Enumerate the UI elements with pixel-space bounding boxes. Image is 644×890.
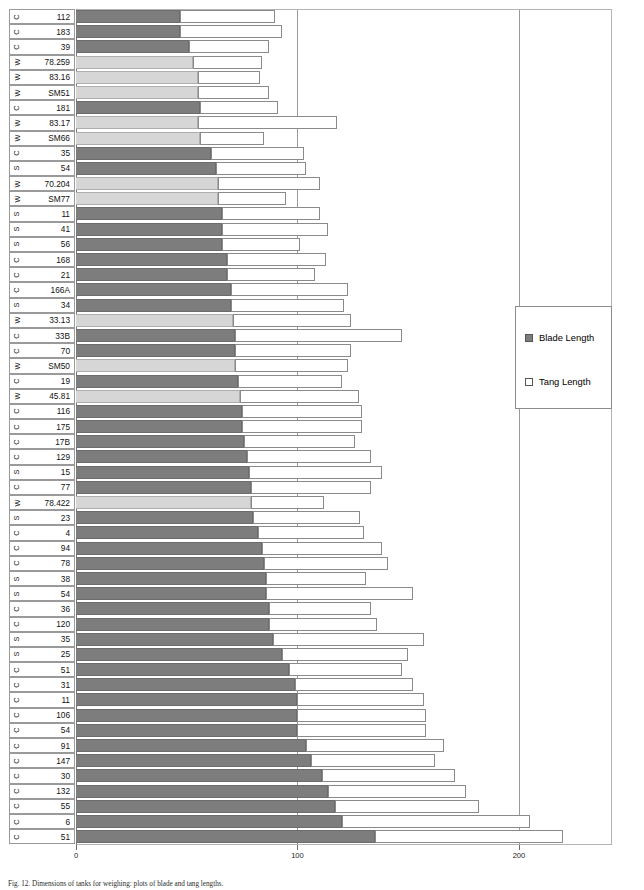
category-id: 129	[56, 453, 70, 461]
bar-segment-tang-length	[289, 663, 402, 676]
category-prefix: C	[13, 485, 20, 490]
bar-segment-blade-length	[76, 132, 200, 145]
bar-segment-tang-length	[222, 238, 300, 251]
chart-row: C94	[0, 541, 644, 556]
category-label-cell: C54	[9, 723, 75, 738]
category-id: 11	[61, 210, 70, 218]
chart-row: S56	[0, 237, 644, 252]
bar-segment-blade-length	[76, 192, 218, 205]
category-prefix: C	[13, 14, 20, 19]
category-id: 31	[61, 681, 70, 689]
bar-segment-tang-length	[297, 693, 423, 706]
chart-row: C35	[0, 146, 644, 161]
category-label-cell: W45.81	[9, 389, 75, 404]
category-label-cell: C31	[9, 677, 75, 692]
bar-segment-blade-length	[76, 390, 240, 403]
bar-segment-tang-length	[218, 192, 287, 205]
bar-segment-tang-length	[266, 587, 412, 600]
bar-segment-tang-length	[295, 678, 412, 691]
bar-segment-blade-length	[76, 466, 249, 479]
chart-row: C175	[0, 419, 644, 434]
chart-row: WSM51	[0, 85, 644, 100]
stacked-bar	[76, 71, 260, 84]
category-id: 51	[61, 833, 70, 841]
x-axis: 0100200	[0, 845, 644, 869]
category-prefix: C	[13, 530, 20, 535]
bar-segment-tang-length	[200, 132, 264, 145]
category-label-cell: C94	[9, 541, 75, 556]
category-label-cell: WSM66	[9, 131, 75, 146]
bar-segment-blade-length	[76, 223, 222, 236]
category-label-cell: S15	[9, 465, 75, 480]
stacked-bar	[76, 132, 264, 145]
category-label-cell: C168	[9, 252, 75, 267]
category-label-cell: C181	[9, 100, 75, 115]
stacked-bar	[76, 177, 320, 190]
axis-tick-label: 0	[74, 851, 78, 860]
category-id: SM77	[48, 195, 70, 203]
category-prefix: C	[13, 758, 20, 763]
bar-segment-blade-length	[76, 405, 242, 418]
chart-row: S54	[0, 586, 644, 601]
chart-row: C21	[0, 267, 644, 282]
category-prefix: C	[13, 789, 20, 794]
bar-segment-blade-length	[76, 633, 273, 646]
figure-caption: Fig. 12. Dimensions of tanks for weighin…	[8, 880, 638, 890]
category-label-cell: C120	[9, 617, 75, 632]
category-prefix: C	[13, 667, 20, 672]
category-prefix: S	[13, 652, 20, 657]
category-prefix: W	[14, 74, 21, 81]
bar-segment-tang-length	[222, 207, 319, 220]
category-prefix: W	[14, 195, 21, 202]
category-prefix: S	[13, 166, 20, 171]
category-prefix: C	[13, 439, 20, 444]
stacked-bar	[76, 162, 306, 175]
chart-row: C30	[0, 768, 644, 783]
bar-segment-blade-length	[76, 238, 222, 251]
category-prefix: C	[13, 561, 20, 566]
legend-swatch-blade-icon	[525, 334, 533, 342]
category-label-cell: C33B	[9, 328, 75, 343]
chart-row: W83.16	[0, 70, 644, 85]
stacked-bar	[76, 785, 466, 798]
category-prefix: S	[13, 242, 20, 247]
stacked-bar	[76, 481, 371, 494]
bar-segment-tang-length	[227, 268, 316, 281]
bar-segment-tang-length	[227, 253, 327, 266]
category-id: 17B	[55, 438, 70, 446]
axis-tick	[76, 845, 77, 850]
chart-row: C168	[0, 252, 644, 267]
axis-tick-label: 100	[291, 851, 304, 860]
category-id: 83.16	[49, 73, 70, 81]
stacked-bar	[76, 192, 286, 205]
bar-segment-blade-length	[76, 253, 227, 266]
category-label-cell: W83.16	[9, 70, 75, 85]
bar-segment-tang-length	[235, 329, 401, 342]
stacked-bar	[76, 405, 362, 418]
stacked-bar	[76, 450, 371, 463]
bar-segment-blade-length	[76, 709, 297, 722]
category-prefix: C	[13, 257, 20, 262]
chart-row: S35	[0, 632, 644, 647]
chart-row: C129	[0, 449, 644, 464]
axis-tick	[519, 845, 520, 850]
bar-segment-blade-length	[76, 754, 311, 767]
bar-segment-blade-length	[76, 815, 342, 828]
bar-segment-tang-length	[282, 648, 408, 661]
chart-row: S15	[0, 465, 644, 480]
category-label-cell: C78	[9, 556, 75, 571]
category-id: 78	[61, 559, 70, 567]
chart-row: C132	[0, 784, 644, 799]
category-label-cell: WSM51	[9, 85, 75, 100]
bar-segment-tang-length	[269, 618, 378, 631]
bar-segment-tang-length	[328, 785, 465, 798]
chart-row: C51	[0, 662, 644, 677]
bar-segment-blade-length	[76, 207, 222, 220]
bar-segment-tang-length	[342, 815, 530, 828]
stacked-bar	[76, 253, 326, 266]
stacked-bar	[76, 602, 371, 615]
category-label-cell: C30	[9, 768, 75, 783]
bar-segment-tang-length	[242, 420, 362, 433]
stacked-bar	[76, 268, 315, 281]
category-label-cell: C19	[9, 374, 75, 389]
